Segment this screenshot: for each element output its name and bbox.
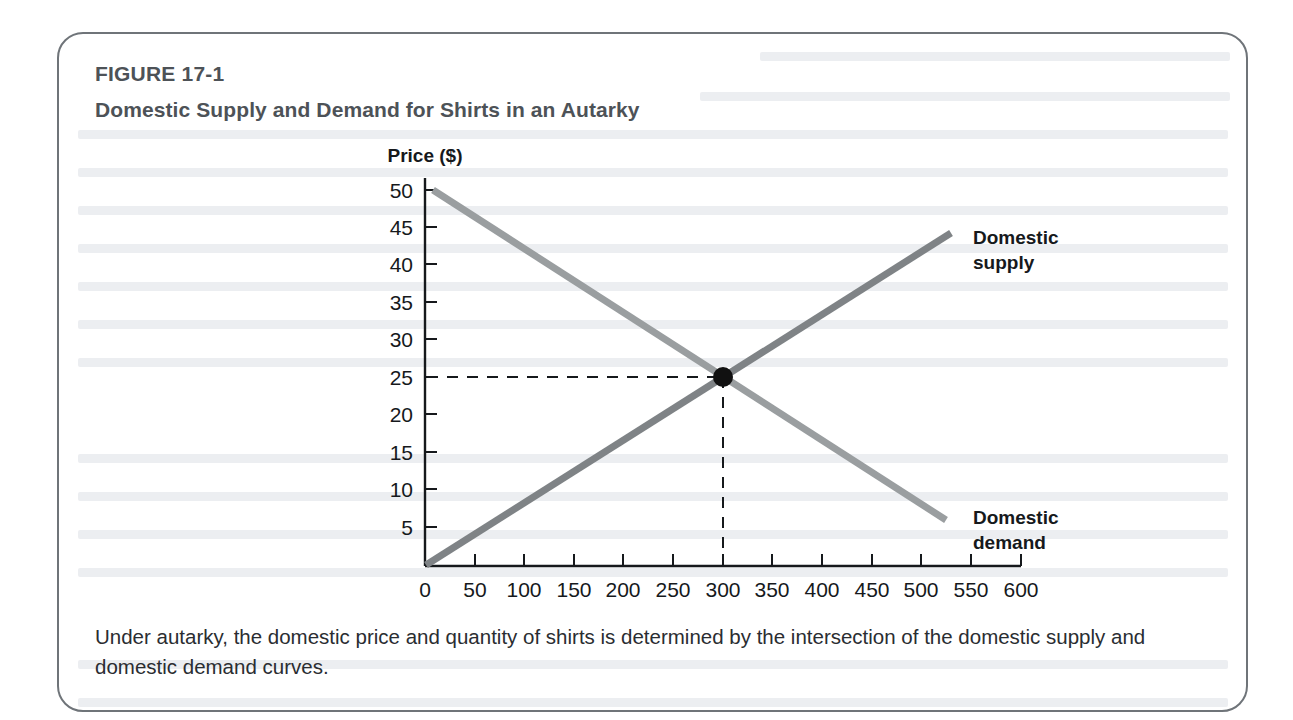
y-axis-title: Price ($) xyxy=(388,145,463,166)
series-label-line1: Domestic xyxy=(973,227,1059,248)
y-axis-ticks xyxy=(425,190,437,527)
x-tick-label: 50 xyxy=(463,578,486,601)
x-tick-label: 550 xyxy=(953,578,988,601)
y-tick-label: 50 xyxy=(390,179,413,202)
x-tick-label: 400 xyxy=(804,578,839,601)
figure-caption: Under autarky, the domestic price and qu… xyxy=(95,622,1205,682)
x-tick-label: 100 xyxy=(506,578,541,601)
x-tick-label: 450 xyxy=(854,578,889,601)
y-tick-label: 35 xyxy=(390,291,413,314)
supply-demand-chart: 50 45 40 35 30 25 20 15 10 5 Price ($) xyxy=(95,142,1205,604)
figure-number-label: FIGURE 17-1 xyxy=(95,62,224,86)
y-tick-label: 40 xyxy=(390,253,413,276)
domestic-demand-label: Domestic demand xyxy=(973,507,1059,553)
equilibrium-point-marker xyxy=(713,367,733,387)
series-label-line1: Domestic xyxy=(973,507,1059,528)
x-axis-ticks xyxy=(475,554,1021,566)
y-axis-tick-labels: 50 45 40 35 30 25 20 15 10 5 xyxy=(390,179,413,539)
x-tick-label: 500 xyxy=(903,578,938,601)
chart-plot-area: 50 45 40 35 30 25 20 15 10 5 Price ($) xyxy=(95,142,1205,604)
x-tick-label: 250 xyxy=(655,578,690,601)
x-tick-label: 150 xyxy=(556,578,591,601)
series-label-line2: demand xyxy=(973,532,1046,553)
x-tick-label: 0 xyxy=(419,578,431,601)
x-axis-tick-labels: 0 50 100 150 200 250 300 350 400 450 500… xyxy=(419,578,1038,601)
domestic-demand-curve xyxy=(433,190,946,520)
y-tick-label: 10 xyxy=(390,478,413,501)
figure-card: FIGURE 17-1 Domestic Supply and Demand f… xyxy=(57,32,1248,712)
y-tick-label: 30 xyxy=(390,328,413,351)
x-tick-label: 200 xyxy=(605,578,640,601)
x-tick-label: 300 xyxy=(705,578,740,601)
y-tick-label: 5 xyxy=(401,516,413,539)
figure-title: Domestic Supply and Demand for Shirts in… xyxy=(95,98,640,122)
y-tick-label: 45 xyxy=(390,216,413,239)
x-tick-label: 350 xyxy=(754,578,789,601)
domestic-supply-curve xyxy=(426,233,951,565)
y-tick-label: 20 xyxy=(390,403,413,426)
x-tick-label: 600 xyxy=(1003,578,1038,601)
y-tick-label: 25 xyxy=(390,366,413,389)
domestic-supply-label: Domestic supply xyxy=(973,227,1059,273)
y-tick-label: 15 xyxy=(390,441,413,464)
series-label-line2: supply xyxy=(973,252,1035,273)
